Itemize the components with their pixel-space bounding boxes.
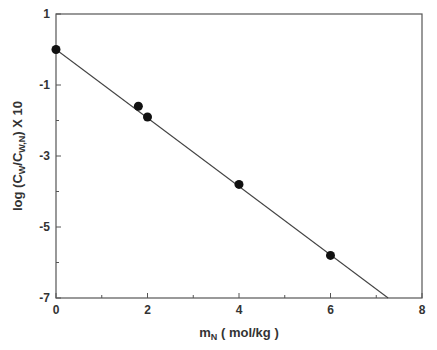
y-tick-label: -1 xyxy=(39,78,50,92)
plot-frame xyxy=(56,14,422,298)
data-point xyxy=(143,112,152,121)
y-tick-label: 1 xyxy=(43,7,50,21)
scatter-chart: 02468 1-1-3-5-7 mN ( mol/kg ) log (CW/CW… xyxy=(0,0,437,350)
x-tick-label: 2 xyxy=(144,303,151,317)
fit-line xyxy=(56,50,388,299)
x-axis-ticks: 02468 xyxy=(53,293,426,317)
data-point xyxy=(235,180,244,189)
x-tick-label: 6 xyxy=(327,303,334,317)
data-point xyxy=(134,102,143,111)
x-tick-label: 4 xyxy=(236,303,243,317)
x-tick-label: 0 xyxy=(53,303,60,317)
y-tick-label: -5 xyxy=(39,220,50,234)
x-axis-label: mN ( mol/kg ) xyxy=(199,325,278,342)
y-tick-label: -3 xyxy=(39,149,50,163)
data-point xyxy=(52,45,61,54)
y-tick-label: -7 xyxy=(39,291,50,305)
y-axis-label: log (CW/CW,N) X 10 xyxy=(10,101,27,211)
x-tick-label: 8 xyxy=(419,303,426,317)
data-point xyxy=(326,251,335,260)
